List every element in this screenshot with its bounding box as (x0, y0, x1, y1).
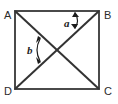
angle-arc-b-curve (37, 39, 40, 61)
square-with-diagonals-diagram: A B C D a b (0, 0, 118, 104)
angle-arc-a (71, 12, 79, 29)
angle-label-b: b (27, 44, 33, 56)
angle-label-a: a (64, 17, 70, 29)
vertex-label-b: B (104, 9, 111, 21)
vertex-label-d: D (4, 85, 12, 97)
vertex-label-c: C (104, 85, 112, 97)
angle-arc-b (36, 36, 41, 64)
vertex-label-a: A (4, 9, 12, 21)
angle-arc-a-arrowhead-bottom (71, 24, 78, 29)
angle-arc-a-arrowhead-top (72, 12, 79, 17)
geometry-figure-canvas: A B C D a b (0, 0, 118, 104)
